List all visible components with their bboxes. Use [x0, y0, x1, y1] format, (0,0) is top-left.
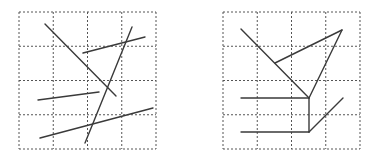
- right-panel: [223, 12, 360, 149]
- line-segment: [85, 27, 132, 143]
- line-segment: [38, 92, 99, 100]
- line-segment: [40, 108, 153, 138]
- dashed-grid: [19, 12, 156, 149]
- line-segment: [83, 37, 145, 53]
- left-panel: [19, 12, 156, 149]
- line-segment: [45, 24, 116, 96]
- diagram-canvas: [0, 0, 377, 163]
- line-segment: [309, 98, 343, 132]
